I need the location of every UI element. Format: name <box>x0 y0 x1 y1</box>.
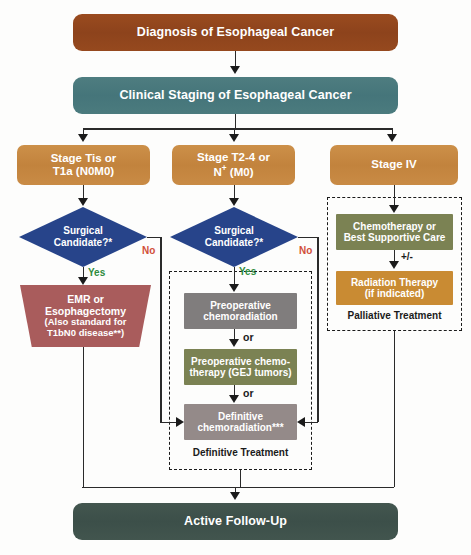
node-stage-tis-t1a[interactable]: Stage Tis or T1a (N0M0) <box>17 145 150 185</box>
node-chemotherapy-or-bsc[interactable]: Chemotherapy or Best Supportive Care <box>336 214 453 250</box>
edge-decision2-yes <box>234 267 236 285</box>
preop-chemo-line2: therapy (GEJ tumors) <box>189 367 291 378</box>
arrowhead-bus-to-stage2 <box>229 134 239 142</box>
definitive-line1: Definitive <box>218 411 263 422</box>
edge-staging-bus <box>83 128 392 130</box>
arrowhead-bus-to-stage1 <box>78 134 88 142</box>
arrowhead-stage1-to-decision1 <box>78 198 88 206</box>
node-emr-esophagectomy[interactable]: EMR or Esophagectomy (Also standard for … <box>20 285 151 347</box>
node-clinical-staging[interactable]: Clinical Staging of Esophageal Cancer <box>73 77 398 114</box>
decision1-line2: Candidate?* <box>54 237 112 248</box>
label-definitive-treatment: Definitive Treatment <box>169 447 312 458</box>
edge-staging-down <box>235 114 237 129</box>
edge-stage1-to-decision1 <box>83 185 85 199</box>
edge-decision1-no-into <box>160 422 177 424</box>
emr-line4: T1bN0 disease**) <box>47 328 124 339</box>
arrowhead-preopchemo-to-definitive <box>229 395 239 403</box>
edge-label-yes-middle: Yes <box>239 266 256 277</box>
arrowhead-stage3-to-chemo <box>389 205 399 213</box>
decision-surgical-candidate-left[interactable]: Surgical Candidate?* <box>19 207 147 267</box>
decision1-line1: Surgical <box>63 225 102 236</box>
node-preoperative-chemotherapy[interactable]: Preoperative chemo- therapy (GEJ tumors) <box>184 349 297 385</box>
stage1-line2: T1a (N0M0) <box>53 165 114 177</box>
chemo-bsc-line2: Best Supportive Care <box>344 232 446 243</box>
edge-label-yes-left: Yes <box>88 267 105 278</box>
chemo-bsc-line1: Chemotherapy or <box>353 221 436 232</box>
arrowhead-stage2-to-decision2 <box>229 198 239 206</box>
node-diagnosis[interactable]: Diagnosis of Esophageal Cancer <box>73 14 398 51</box>
node-radiation-therapy[interactable]: Radiation Therapy (if indicated) <box>336 271 453 305</box>
radiation-line1: Radiation Therapy <box>351 277 438 288</box>
edge-label-or-2: or <box>243 387 254 399</box>
edge-decision1-no-v <box>160 237 162 422</box>
stage2-line2-rest: (M0) <box>227 166 254 178</box>
arrowhead-preopcrt-to-preopchemo <box>229 339 239 347</box>
decision-left-text: Surgical Candidate?* <box>19 207 147 267</box>
stage1-line1: Stage Tis or <box>51 152 117 164</box>
definitive-line2: chemoradiation*** <box>197 422 283 433</box>
node-active-follow-up[interactable]: Active Follow-Up <box>73 503 398 540</box>
decision-surgical-candidate-middle[interactable]: Surgical Candidate?* <box>170 207 298 267</box>
edge-label-plus-minus: +/- <box>401 251 413 262</box>
arrowhead-bus-to-followup <box>230 492 240 500</box>
decision-middle-text: Surgical Candidate?* <box>170 207 298 267</box>
arrowhead-decision2-no <box>297 417 305 427</box>
edge-stage2-to-decision2 <box>234 185 236 199</box>
edge-decision1-no-h <box>147 237 161 239</box>
preop-crt-line1: Preoperative <box>210 300 271 311</box>
edge-definitive-group-down <box>240 470 242 487</box>
node-definitive-chemoradiation[interactable]: Definitive chemoradiation*** <box>184 404 297 440</box>
radiation-line2: (if indicated) <box>365 288 424 299</box>
arrowhead-decision1-yes <box>78 277 88 285</box>
stage2-line2: N <box>214 166 222 178</box>
node-stage-iv[interactable]: Stage IV <box>330 145 458 185</box>
esophageal-cancer-flowchart: Yes No Yes No or or +/- Diagnosis of Eso… <box>0 0 471 555</box>
arrowhead-bus-to-stage3 <box>387 134 397 142</box>
arrowhead-decision1-no <box>176 417 184 427</box>
preop-chemo-line1: Preoperative chemo- <box>191 356 290 367</box>
stage2-line1: Stage T2-4 or <box>197 151 270 163</box>
edge-decision2-no-h <box>298 237 318 239</box>
node-preoperative-chemoradiation[interactable]: Preoperative chemoradiation <box>184 293 297 329</box>
edge-label-or-1: or <box>243 331 254 343</box>
edge-decision2-no-into <box>305 422 318 424</box>
arrowhead-chemo-to-radiation <box>389 261 399 269</box>
label-palliative-treatment: Palliative Treatment <box>327 310 462 321</box>
arrowhead-decision2-yes <box>229 284 239 292</box>
decision2-line2: Candidate?* <box>205 237 263 248</box>
edge-label-no-middle: No <box>299 245 312 256</box>
edge-bottom-merge-bus <box>82 487 394 489</box>
edge-stage3-to-chemo <box>394 185 396 206</box>
edge-decision2-no-v <box>317 237 319 422</box>
edge-emr-down-to-bus <box>83 347 85 487</box>
emr-line1: EMR or <box>67 293 104 305</box>
decision2-line1: Surgical <box>214 225 253 236</box>
arrowhead-diagnosis-to-staging <box>230 66 240 74</box>
edge-palliative-down-to-bus <box>394 331 396 487</box>
preop-crt-line2: chemoradiation <box>203 311 277 322</box>
node-stage-t2-4[interactable]: Stage T2-4 or N+ (M0) <box>172 145 295 185</box>
